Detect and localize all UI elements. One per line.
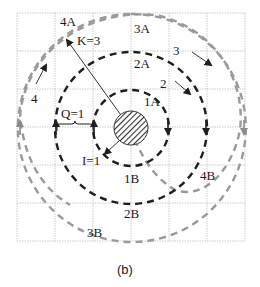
label-2: 2	[160, 76, 167, 91]
label-3b: 3B	[87, 225, 103, 240]
label-1b: 1B	[124, 171, 140, 186]
label-4a: 4A	[60, 14, 77, 29]
label-3: 3	[173, 43, 180, 58]
figure-caption: (b)	[117, 262, 133, 277]
pointer-3	[192, 52, 211, 65]
label-3a: 3A	[134, 21, 151, 36]
label-1a: 1A	[144, 94, 161, 109]
label-4b: 4B	[200, 168, 216, 183]
label-q: Q=1	[61, 106, 84, 121]
label-2b: 2B	[124, 206, 140, 221]
pointer-2	[175, 81, 190, 94]
label-2a: 2A	[134, 56, 151, 71]
center-obstacle	[114, 111, 148, 145]
label-4: 4	[31, 91, 38, 106]
q-brace	[57, 121, 93, 131]
label-k: K=3	[77, 33, 100, 48]
label-i: I=1	[82, 153, 100, 168]
spiral-path-diagram: 4A K=3 3A 3 2A 2 1A 4 Q=1 I=1 1B 4B 2B 3…	[0, 0, 260, 287]
